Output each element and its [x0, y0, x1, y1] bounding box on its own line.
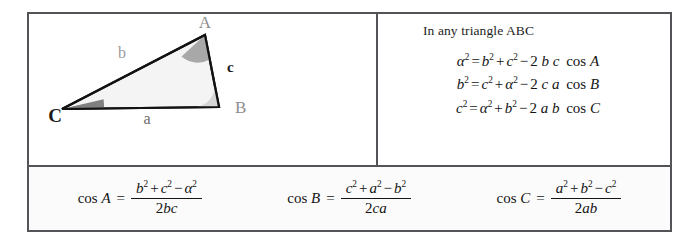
formula-cos-A: cos A = b2+c2−α2 2bc	[74, 180, 206, 217]
cosB-minus: −	[382, 180, 394, 196]
eq3-p2: b	[552, 100, 560, 116]
reference-table: A B C a b c In any triangle ABC α2=b2+c2…	[27, 12, 672, 232]
table-row-bottom: cos A = b2+c2−α2 2bc cos B = c2+a2−b2	[29, 165, 670, 230]
cosC-denominator: 2ab	[570, 199, 603, 217]
eq2-t2-var: α	[505, 76, 513, 92]
vertex-label-C: C	[48, 105, 62, 126]
cosA-numerator: b2+c2−α2	[131, 180, 202, 198]
cosB-plus: +	[357, 180, 369, 196]
triangle-diagram-cell: A B C a b c	[29, 14, 376, 165]
table-row-top: A B C a b c In any triangle ABC α2=b2+c2…	[29, 14, 670, 165]
cosA-n1-var: b	[136, 180, 144, 196]
eq3-t1-var: α	[480, 100, 488, 116]
eq3-lhs-var: c	[456, 100, 463, 116]
cosC-n3-exp: 2	[612, 179, 617, 189]
cosB-den-vars: ca	[373, 200, 387, 216]
eq3-coef: 2	[529, 100, 537, 116]
cosA-fn: cos	[78, 190, 98, 207]
cosC-n2-exp: 2	[588, 179, 593, 189]
cosB-denominator: 2ca	[360, 199, 392, 217]
cosA-n3-exp: 2	[192, 179, 197, 189]
cosA-equals: =	[111, 190, 131, 207]
equation-law-of-cosines-a: α2=b2+c2−2 b c cos A	[378, 50, 672, 73]
eq3-p1: a	[541, 100, 549, 116]
law-of-cosines-figure: A B C a b c In any triangle ABC α2=b2+c2…	[0, 0, 694, 243]
eq2-minus: −	[518, 76, 530, 92]
eq1-p1: b	[542, 53, 550, 69]
eq1-equals: =	[469, 53, 481, 69]
cosC-minus: −	[593, 180, 605, 196]
eq2-equals: =	[469, 76, 481, 92]
cosA-minus: −	[172, 180, 184, 196]
cosB-arg: B	[311, 190, 320, 207]
cosA-plus: +	[148, 180, 160, 196]
cosA-arg: A	[101, 190, 110, 207]
side-label-a: a	[143, 110, 150, 127]
cosB-n3-exp: 2	[402, 179, 407, 189]
formulas-caption: In any triangle ABC	[423, 23, 534, 39]
cosB-fn: cos	[287, 190, 307, 207]
eq1-p2: c	[553, 53, 560, 69]
cosA-den-vars: bc	[163, 200, 177, 216]
eq2-fn-arg: B	[590, 76, 599, 92]
equation-law-of-cosines-c: c2=α2+b2−2 a b cos C	[378, 97, 672, 120]
eq3-fn: cos	[563, 100, 586, 116]
cosB-numerator: c2+a2−b2	[341, 180, 412, 198]
cosC-fraction: a2+b2−c2 2ab	[551, 180, 622, 217]
formula-cos-C: cos C = a2+b2−c2 2ab	[493, 180, 626, 217]
cosC-plus: +	[568, 180, 580, 196]
cosB-fraction: c2+a2−b2 2ca	[341, 180, 412, 217]
eq2-p1: c	[542, 76, 549, 92]
vertex-label-A: A	[199, 14, 212, 32]
eq2-plus: +	[493, 76, 505, 92]
cosC-equals: =	[530, 190, 550, 207]
eq2-fn: cos	[563, 76, 586, 92]
cosB-equals: =	[320, 190, 340, 207]
cosC-fn: cos	[497, 190, 517, 207]
cosine-formula-strip: cos A = b2+c2−α2 2bc cos B = c2+a2−b2	[29, 167, 670, 230]
formulas-cell: In any triangle ABC α2=b2+c2−2 b c cos A…	[376, 14, 670, 165]
triangle-diagram: A B C a b c	[29, 14, 376, 165]
cosC-n3-var: c	[605, 180, 612, 196]
law-of-cosines-list: α2=b2+c2−2 b c cos A b2=c2+α2−2 c a cos …	[378, 50, 672, 120]
eq3-fn-arg: C	[590, 100, 600, 116]
eq2-p2: a	[552, 76, 560, 92]
eq1-plus: +	[494, 53, 506, 69]
cosA-fraction: b2+c2−α2 2bc	[131, 180, 202, 217]
side-label-c: c	[227, 59, 234, 75]
cosC-n2-var: b	[580, 180, 588, 196]
cosB-n2-exp: 2	[377, 179, 382, 189]
side-label-b: b	[118, 44, 126, 61]
eq1-fn-arg: A	[590, 53, 599, 69]
cosB-den-coef: 2	[365, 200, 373, 216]
eq2-coef: 2	[530, 76, 538, 92]
eq1-minus: −	[518, 53, 530, 69]
formula-cos-B: cos B = c2+a2−b2 2ca	[283, 180, 415, 217]
eq3-plus: +	[492, 100, 504, 116]
cosC-den-vars: ab	[582, 200, 597, 216]
cosC-numerator: a2+b2−c2	[551, 180, 622, 198]
cosB-n2-var: a	[369, 180, 377, 196]
eq1-fn: cos	[563, 53, 586, 69]
cosB-n3-var: b	[394, 180, 402, 196]
cosA-denominator: 2bc	[151, 199, 183, 217]
eq1-coef: 2	[530, 53, 538, 69]
eq3-equals: =	[467, 100, 479, 116]
cosC-arg: C	[520, 190, 530, 207]
eq1-lhs-var: α	[457, 53, 465, 69]
vertex-label-B: B	[235, 98, 246, 117]
equation-law-of-cosines-b: b2=c2+α2−2 c a cos B	[378, 73, 672, 96]
eq3-minus: −	[517, 100, 529, 116]
